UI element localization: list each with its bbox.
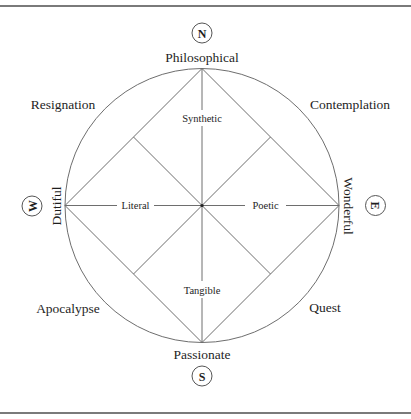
pole-top-label: Philosophical xyxy=(165,50,239,65)
axis-lower-label: Tangible xyxy=(184,285,221,296)
diagonal-lower-left xyxy=(134,206,203,275)
quadrant-bottom-right-label: Quest xyxy=(309,300,341,315)
compass-diagram: N S E W Philosophical Passionate Dutiful… xyxy=(0,0,411,419)
quadrant-top-right-label: Contemplation xyxy=(310,97,390,112)
center-point xyxy=(200,204,203,207)
pole-left-label: Dutiful xyxy=(49,186,64,225)
axis-left-label: Literal xyxy=(122,200,150,211)
pole-bottom-label: Passionate xyxy=(174,347,231,362)
diagonal-upper-right xyxy=(202,137,271,206)
pole-right-label: Wonderful xyxy=(341,177,356,235)
quadrant-top-left-label: Resignation xyxy=(31,97,96,112)
north-letter: N xyxy=(198,27,207,41)
axis-upper-label: Synthetic xyxy=(182,113,222,124)
diagonal-lower-right xyxy=(202,206,271,275)
diagonal-upper-left xyxy=(134,137,203,206)
quadrant-bottom-left-label: Apocalypse xyxy=(36,301,100,316)
east-letter: E xyxy=(368,201,382,209)
south-letter: S xyxy=(199,370,206,384)
axis-right-label: Poetic xyxy=(252,200,279,211)
west-letter: W xyxy=(26,200,40,212)
